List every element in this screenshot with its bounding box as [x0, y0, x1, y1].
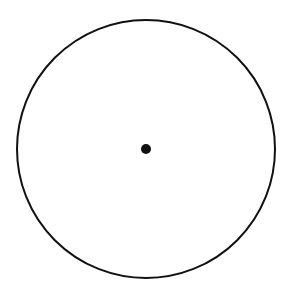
circle-diagram [0, 0, 293, 296]
center-point [141, 144, 151, 154]
